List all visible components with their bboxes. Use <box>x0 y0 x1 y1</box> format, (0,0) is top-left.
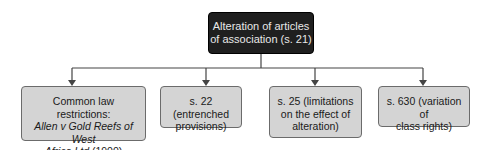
node-text: class rights) <box>383 120 465 133</box>
case-year: (1900) <box>89 145 122 150</box>
node-text: on the effect of <box>278 108 354 121</box>
node-text: provisions) <box>165 120 237 133</box>
node-s22: s. 22 (entrenched provisions) <box>160 86 242 128</box>
node-text: s. 630 (variation of <box>383 95 465 120</box>
node-text: s. 22 (entrenched <box>165 95 237 120</box>
node-text: s. 25 (limitations <box>278 95 354 108</box>
case-name: Africa Ltd <box>45 145 89 150</box>
node-s630: s. 630 (variation of class rights) <box>378 86 470 127</box>
node-s25: s. 25 (limitations on the effect of alte… <box>269 86 362 138</box>
case-name: Allen v Gold Reefs of West <box>34 120 133 145</box>
root-line-2: of association (s. 21) <box>210 33 312 46</box>
root-node: Alteration of articles of association (s… <box>208 12 314 54</box>
node-common-law: Common law restrictions: Allen v Gold Re… <box>21 86 146 141</box>
node-text: Common law restrictions: <box>26 95 141 120</box>
node-text: alteration) <box>278 120 354 133</box>
root-line-1: Alteration of articles <box>210 20 312 33</box>
